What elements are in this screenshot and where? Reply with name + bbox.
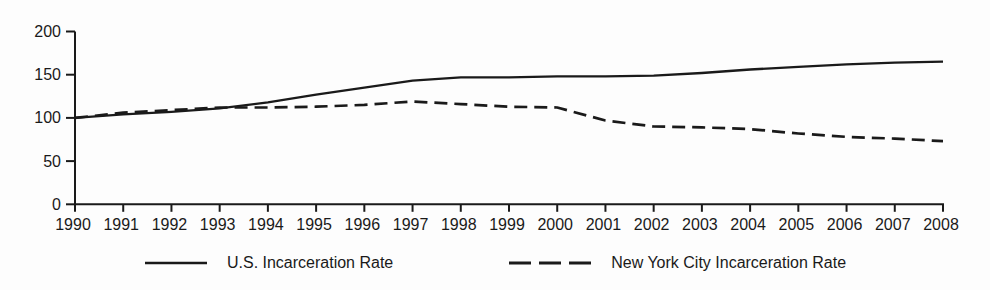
x-tick-label: 2007	[875, 216, 911, 233]
y-tick-label: 50	[43, 153, 61, 170]
line-chart: 0501001502001990199119921993199419951996…	[0, 0, 990, 248]
x-tick-label: 1992	[152, 216, 188, 233]
solid-line-icon	[144, 259, 208, 267]
legend-label-us: U.S. Incarceration Rate	[227, 254, 393, 272]
x-tick-label: 1995	[296, 216, 332, 233]
nyc-rate-line	[75, 102, 943, 142]
x-tick-label: 1999	[489, 216, 525, 233]
x-tick-label: 1991	[103, 216, 139, 233]
dashed-line-icon	[508, 259, 592, 267]
legend-item-nyc: New York City Incarceration Rate	[508, 254, 846, 272]
x-tick-label: 1997	[393, 216, 429, 233]
incarceration-rate-chart: 0501001502001990199119921993199419951996…	[0, 0, 990, 290]
y-tick-label: 0	[52, 196, 61, 213]
x-tick-label: 2002	[634, 216, 670, 233]
x-tick-label: 1990	[55, 216, 91, 233]
legend-label-nyc: New York City Incarceration Rate	[611, 254, 846, 272]
x-tick-label: 2008	[923, 216, 959, 233]
x-tick-label: 1996	[345, 216, 381, 233]
legend-item-us: U.S. Incarceration Rate	[144, 254, 393, 272]
x-tick-label: 2005	[779, 216, 815, 233]
chart-legend: U.S. Incarceration Rate New York City In…	[0, 254, 990, 272]
y-tick-label: 150	[34, 66, 61, 83]
x-tick-label: 1993	[200, 216, 236, 233]
x-tick-label: 1998	[441, 216, 477, 233]
y-tick-label: 100	[34, 109, 61, 126]
x-tick-label: 2000	[537, 216, 573, 233]
x-tick-label: 2004	[730, 216, 766, 233]
x-tick-label: 2006	[827, 216, 863, 233]
y-tick-label: 200	[34, 23, 61, 40]
x-tick-label: 2003	[682, 216, 718, 233]
x-tick-label: 1994	[248, 216, 284, 233]
x-tick-label: 2001	[586, 216, 622, 233]
